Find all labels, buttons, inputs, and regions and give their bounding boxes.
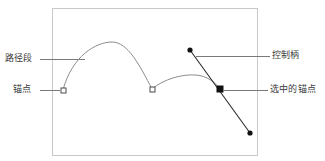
bezier-path-diagram: 路径段 锚点 控制柄 选中的锚点 (0, 0, 325, 161)
label-control-handle: 控制柄 (272, 50, 300, 61)
artboard-frame (53, 9, 258, 156)
label-anchor-point: 锚点 (13, 84, 31, 95)
anchor-point-2[interactable] (150, 87, 155, 92)
label-selected-anchor: 选中的锚点 (270, 84, 316, 95)
label-path-segment: 路径段 (5, 53, 33, 64)
selected-anchor-point[interactable] (217, 86, 223, 92)
bezier-path-curve (63, 42, 220, 90)
control-handle-dot-bottom[interactable] (247, 130, 252, 135)
control-handle-dot-top[interactable] (187, 47, 192, 52)
diagram-canvas (0, 0, 325, 161)
anchor-point-1[interactable] (61, 88, 66, 93)
